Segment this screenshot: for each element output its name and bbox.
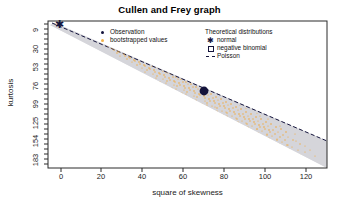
legend-item-normal: ✱ normal bbox=[205, 36, 273, 44]
legend-observation: Observation bootstrapped values bbox=[98, 28, 168, 44]
x-tick-label: 40 bbox=[127, 172, 157, 181]
cullen-frey-chart: Cullen and Frey graph bbox=[0, 0, 339, 208]
legend-item-bootstrap: bootstrapped values bbox=[98, 36, 168, 44]
x-tick-label: 80 bbox=[209, 172, 239, 181]
y-tick-label: 76 bbox=[31, 76, 41, 96]
x-axis-label: square of skewness bbox=[48, 188, 327, 197]
negative-binomial-region bbox=[50, 23, 327, 168]
y-tick-label: 99 bbox=[31, 94, 41, 114]
legend-label-negative-binomial: negative binomial bbox=[216, 44, 267, 52]
legend-label-observation: Observation bbox=[109, 28, 144, 36]
x-tick-label: 0 bbox=[46, 172, 76, 181]
y-tick-label: 154 bbox=[31, 131, 41, 151]
y-axis-label: kurtosis bbox=[6, 63, 15, 123]
x-tick-label: 100 bbox=[250, 172, 280, 181]
x-tick-label: 60 bbox=[168, 172, 198, 181]
y-tick-label: 53 bbox=[31, 57, 41, 77]
observation-point bbox=[200, 87, 209, 96]
y-tick-label: 125 bbox=[31, 113, 41, 133]
legend-header-theoretical: Theoretical distributions bbox=[205, 28, 273, 36]
filled-circle-icon bbox=[98, 28, 109, 36]
x-tick-label: 120 bbox=[291, 172, 321, 181]
y-tick-label: 30 bbox=[31, 39, 41, 59]
normal-star-marker: ✱ bbox=[55, 18, 64, 30]
legend-label-normal: normal bbox=[216, 36, 237, 44]
star-icon: ✱ bbox=[205, 36, 216, 44]
y-axis-ticks bbox=[44, 24, 48, 164]
legend-item-observation: Observation bbox=[98, 28, 168, 36]
legend-item-poisson: Poisson bbox=[205, 52, 273, 60]
dashed-line-icon bbox=[205, 52, 216, 60]
svg-text:✱: ✱ bbox=[55, 18, 64, 30]
legend-label-poisson: Poisson bbox=[216, 52, 240, 60]
open-square-icon bbox=[205, 44, 216, 52]
orange-dot-icon bbox=[98, 36, 109, 44]
y-tick-label: 183 bbox=[31, 150, 41, 170]
legend-theoretical: Theoretical distributions ✱ normal negat… bbox=[205, 28, 273, 60]
legend-item-negative-binomial: negative binomial bbox=[205, 44, 273, 52]
poisson-line bbox=[52, 23, 327, 141]
y-tick-label: 9 bbox=[31, 20, 41, 40]
legend-label-bootstrap: bootstrapped values bbox=[109, 36, 168, 44]
x-tick-label: 20 bbox=[86, 172, 116, 181]
